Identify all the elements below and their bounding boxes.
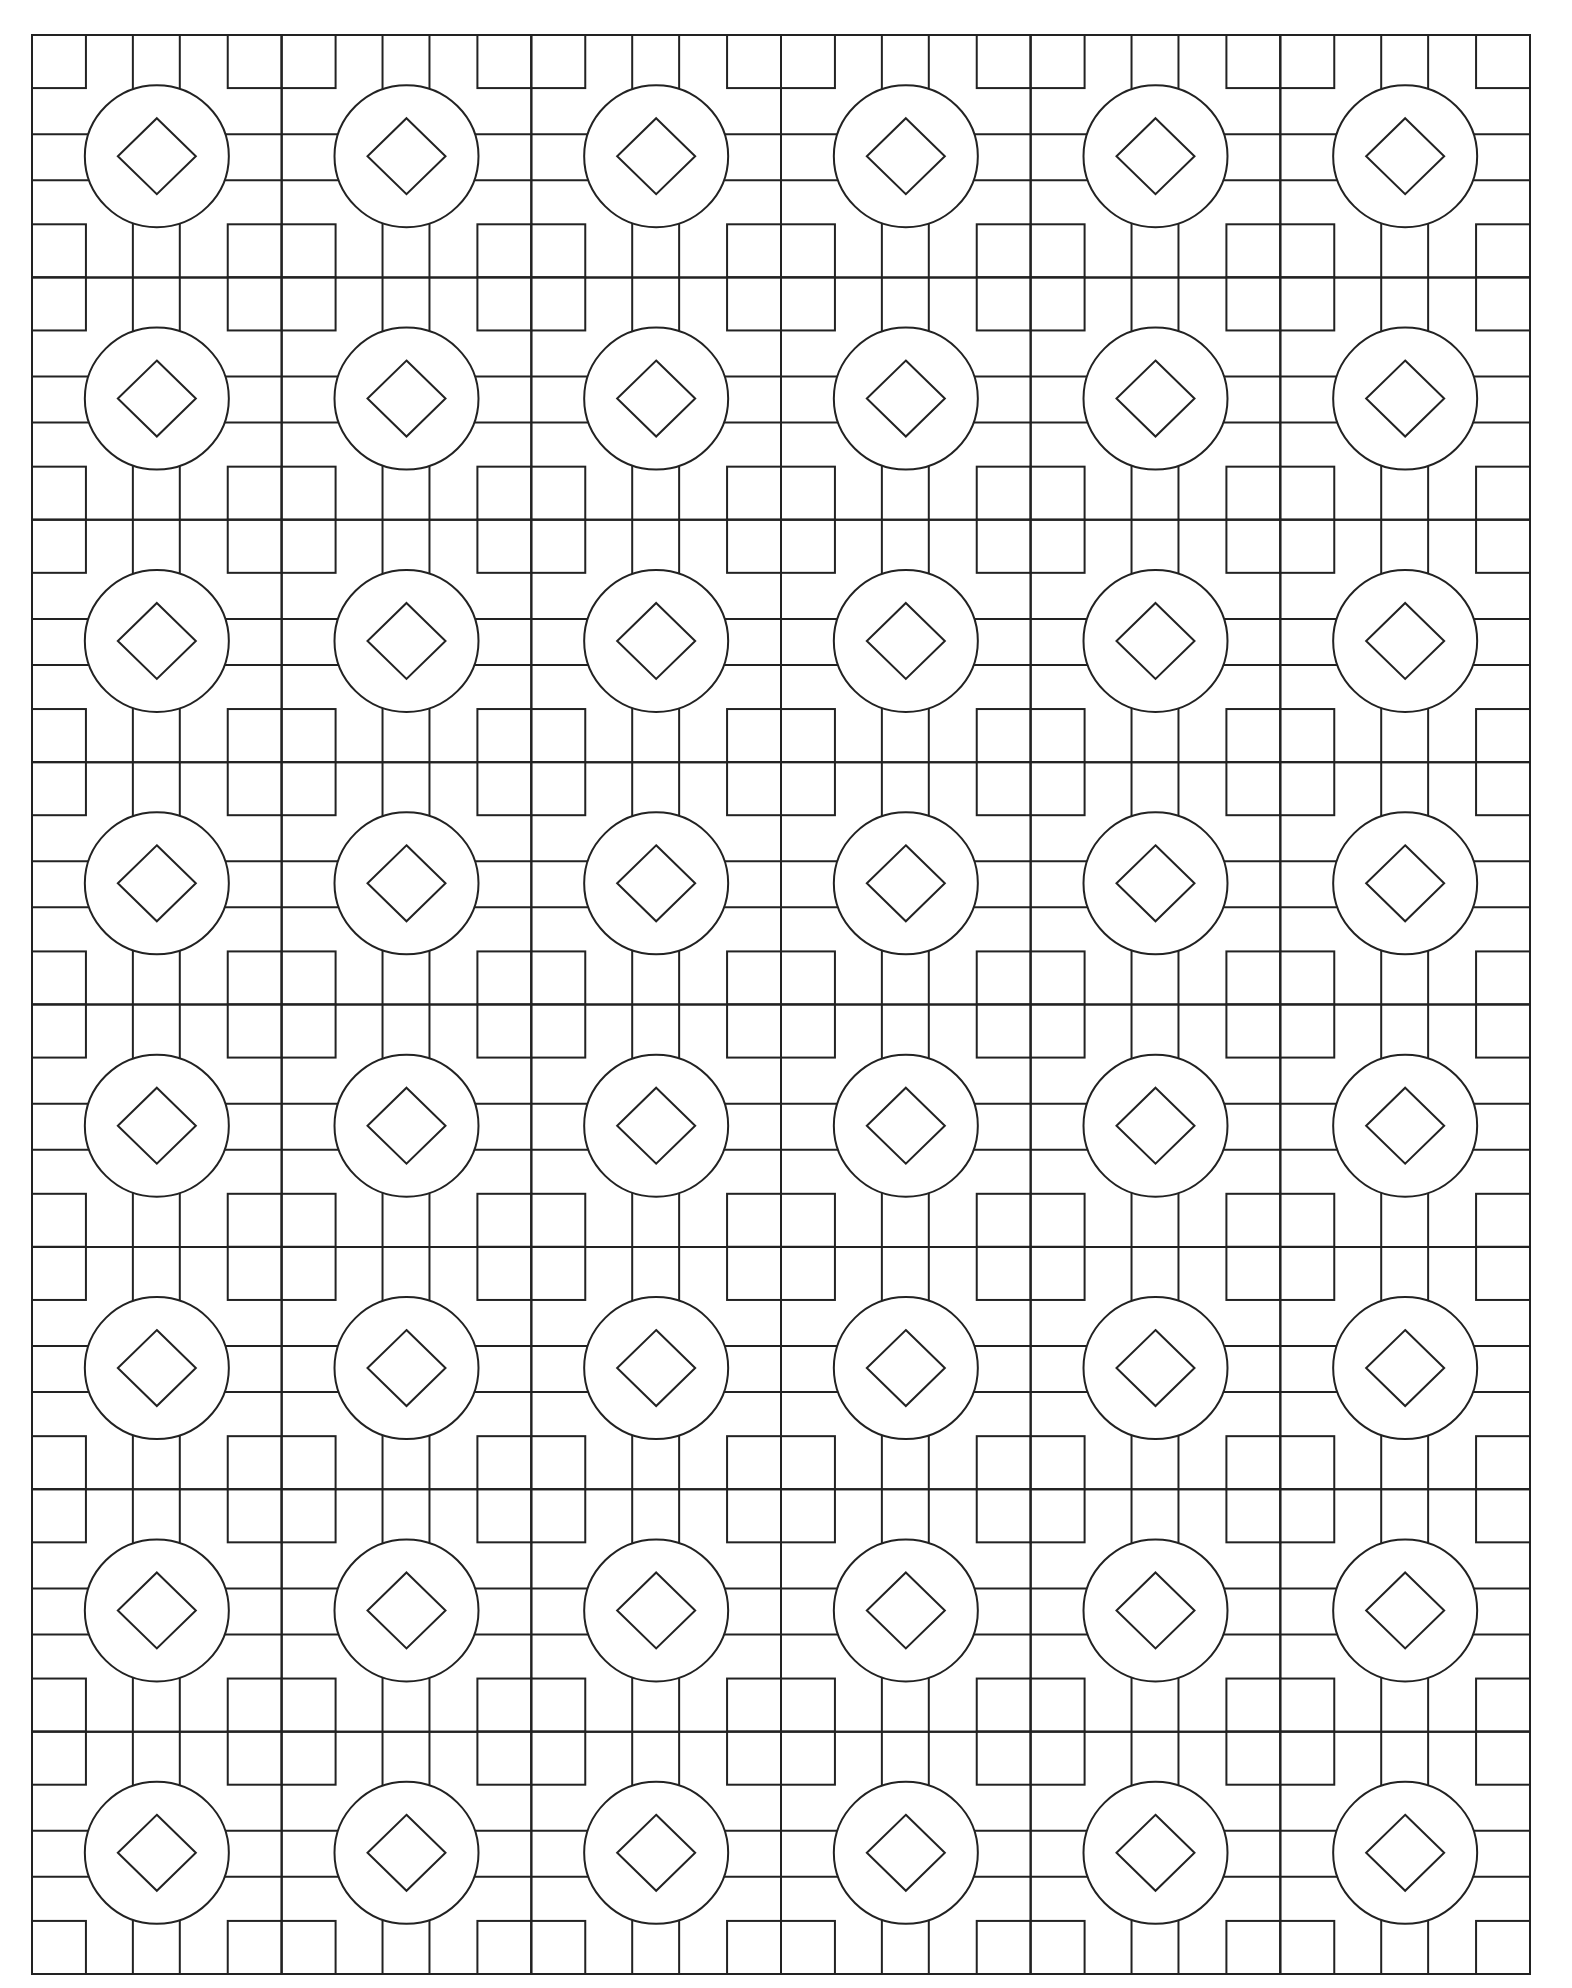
circle-shape bbox=[335, 328, 479, 470]
corner-square bbox=[32, 1194, 86, 1247]
corner-square bbox=[1031, 277, 1085, 330]
tile-motif bbox=[1333, 85, 1477, 227]
corner-square bbox=[531, 1489, 585, 1542]
corner-square bbox=[781, 1489, 835, 1542]
corner-square bbox=[727, 709, 781, 762]
corner-square bbox=[477, 709, 531, 762]
tile-motif bbox=[1084, 570, 1228, 712]
corner-square bbox=[1226, 1247, 1280, 1300]
circle-shape bbox=[335, 570, 479, 712]
circle-shape bbox=[834, 570, 978, 712]
corner-square bbox=[727, 277, 781, 330]
corner-square bbox=[282, 35, 336, 88]
corner-square bbox=[727, 1005, 781, 1058]
circle-shape bbox=[85, 812, 229, 954]
corner-square bbox=[32, 1732, 86, 1785]
tile-motif bbox=[85, 1297, 229, 1439]
corner-square bbox=[531, 762, 585, 815]
circle-shape bbox=[584, 812, 728, 954]
corner-square bbox=[1476, 709, 1530, 762]
corner-square bbox=[1031, 467, 1085, 520]
corner-square bbox=[977, 224, 1031, 277]
corner-square bbox=[1031, 1005, 1085, 1058]
corner-square bbox=[282, 467, 336, 520]
corner-square bbox=[1280, 1436, 1334, 1489]
circle-shape bbox=[85, 85, 229, 227]
circle-shape bbox=[85, 1539, 229, 1681]
corner-square bbox=[477, 1194, 531, 1247]
circle-shape bbox=[1333, 812, 1477, 954]
corner-square bbox=[1476, 277, 1530, 330]
corner-square bbox=[1031, 1732, 1085, 1785]
corner-square bbox=[781, 1436, 835, 1489]
corner-square bbox=[1031, 1489, 1085, 1542]
circle-shape bbox=[335, 1782, 479, 1924]
corner-square bbox=[282, 1194, 336, 1247]
corner-square bbox=[977, 1247, 1031, 1300]
corner-square bbox=[282, 1732, 336, 1785]
tile-motif bbox=[1333, 1782, 1477, 1924]
corner-square bbox=[977, 1005, 1031, 1058]
corner-square bbox=[977, 1679, 1031, 1732]
corner-square bbox=[977, 762, 1031, 815]
corner-square bbox=[282, 1247, 336, 1300]
corner-square bbox=[1031, 35, 1085, 88]
corner-square bbox=[32, 467, 86, 520]
tile-motif bbox=[584, 1539, 728, 1681]
circle-shape bbox=[584, 85, 728, 227]
circle-shape bbox=[1084, 328, 1228, 470]
corner-square bbox=[781, 467, 835, 520]
tile-motif bbox=[1084, 1539, 1228, 1681]
corner-square bbox=[228, 1005, 282, 1058]
corner-square bbox=[228, 1732, 282, 1785]
tile-motif bbox=[1333, 1539, 1477, 1681]
corner-square bbox=[977, 1194, 1031, 1247]
corner-square bbox=[32, 951, 86, 1004]
corner-square bbox=[531, 35, 585, 88]
corner-square bbox=[1280, 277, 1334, 330]
tile-motif bbox=[85, 85, 229, 227]
corner-square bbox=[1226, 1005, 1280, 1058]
corner-square bbox=[282, 277, 336, 330]
corner-square bbox=[228, 520, 282, 573]
corner-square bbox=[531, 467, 585, 520]
tile-motif bbox=[85, 328, 229, 470]
circle-shape bbox=[85, 1297, 229, 1439]
corner-square bbox=[781, 709, 835, 762]
corner-square bbox=[32, 762, 86, 815]
tile-motif bbox=[584, 85, 728, 227]
corner-square bbox=[781, 520, 835, 573]
corner-square bbox=[32, 1679, 86, 1732]
corner-square bbox=[1476, 1489, 1530, 1542]
corner-square bbox=[282, 520, 336, 573]
corner-square bbox=[477, 762, 531, 815]
corner-square bbox=[1476, 1732, 1530, 1785]
tile-motif bbox=[834, 85, 978, 227]
circle-shape bbox=[85, 570, 229, 712]
corner-square bbox=[1031, 762, 1085, 815]
corner-square bbox=[477, 277, 531, 330]
corner-square bbox=[32, 1436, 86, 1489]
circle-shape bbox=[834, 1055, 978, 1197]
corner-square bbox=[1031, 224, 1085, 277]
corner-square bbox=[228, 951, 282, 1004]
corner-square bbox=[1280, 1921, 1334, 1974]
corner-square bbox=[977, 467, 1031, 520]
corner-square bbox=[1226, 709, 1280, 762]
tile-motif bbox=[335, 85, 479, 227]
tile-motif bbox=[1333, 1055, 1477, 1197]
corner-square bbox=[1226, 1921, 1280, 1974]
tile-motif bbox=[1084, 1782, 1228, 1924]
corner-square bbox=[781, 951, 835, 1004]
corner-square bbox=[727, 467, 781, 520]
circle-shape bbox=[1084, 1782, 1228, 1924]
corner-square bbox=[477, 1732, 531, 1785]
corner-square bbox=[1031, 1194, 1085, 1247]
corner-square bbox=[531, 520, 585, 573]
tile-motif bbox=[85, 1055, 229, 1197]
corner-square bbox=[1476, 762, 1530, 815]
corner-square bbox=[781, 35, 835, 88]
corner-square bbox=[1476, 35, 1530, 88]
corner-square bbox=[781, 224, 835, 277]
corner-square bbox=[32, 1005, 86, 1058]
